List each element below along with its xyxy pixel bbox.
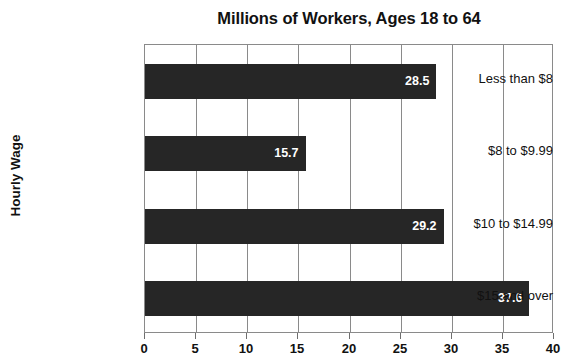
x-axis-tick-mark [246, 333, 247, 339]
x-axis-tick-mark [400, 333, 401, 339]
clipped-text-above-title [120, 0, 420, 3]
x-axis-tick-mark [297, 333, 298, 339]
x-axis-tick-label: 40 [533, 341, 561, 356]
x-axis-tick-label: 30 [431, 341, 471, 356]
x-axis-tick-mark [144, 333, 145, 339]
x-axis-tick-label: 0 [124, 341, 164, 356]
y-axis-label: $10 to $14.99 [413, 216, 553, 231]
x-axis-tick-label: 35 [482, 341, 522, 356]
y-axis-label: $8 to $9.99 [413, 143, 553, 158]
y-axis-title: Hourly Wage [8, 116, 23, 236]
y-axis-label: Less than $8 [413, 71, 553, 86]
x-axis-tick-label: 10 [226, 341, 266, 356]
x-axis-tick-label: 5 [175, 341, 215, 356]
x-axis-tick-label: 15 [277, 341, 317, 356]
x-axis-tick-mark [451, 333, 452, 339]
bar-value-label: 15.7 [261, 136, 299, 171]
x-axis-tick-label: 25 [380, 341, 420, 356]
x-axis-tick-mark [195, 333, 196, 339]
x-axis-tick-mark [502, 333, 503, 339]
chart-title: Millions of Workers, Ages 18 to 64 [144, 9, 554, 28]
bar-chart: Millions of Workers, Ages 18 to 64 Hourl… [0, 0, 561, 361]
x-axis-tick-label: 20 [329, 341, 369, 356]
y-axis-label: $15 and over [413, 288, 553, 303]
x-axis-tick-mark [349, 333, 350, 339]
x-axis-tick-mark [553, 333, 554, 339]
